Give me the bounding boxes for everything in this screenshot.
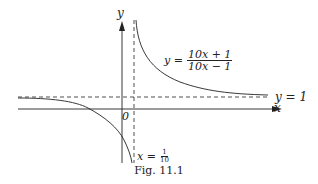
- curve-equation: y = 10x + 1 10x − 1: [164, 49, 232, 72]
- figure-caption: Fig. 11.1: [0, 164, 318, 177]
- y-axis-label: y: [117, 6, 124, 20]
- vertical-asymptote-denominator: 10: [160, 157, 169, 164]
- curve-equation-denominator: 10x − 1: [188, 61, 231, 72]
- curve-left-branch: [18, 98, 132, 163]
- horizontal-asymptote-label: y = 1: [275, 90, 307, 104]
- origin-label: 0: [122, 110, 129, 123]
- vertical-asymptote-equation: x = 1 10: [137, 149, 169, 164]
- vertical-asymptote-lhs: x =: [137, 150, 156, 163]
- y-axis-arrow-icon: [119, 21, 125, 31]
- curve-equation-lhs: y =: [164, 54, 183, 67]
